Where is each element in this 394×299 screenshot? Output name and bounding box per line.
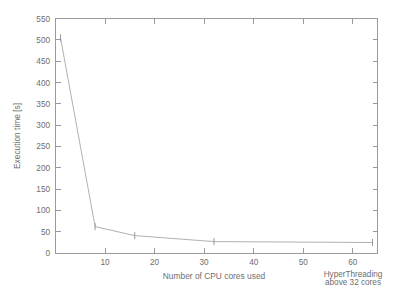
x-axis-ticks [105, 19, 353, 254]
x-tick-label: 20 [150, 258, 160, 267]
y-tick-label: 100 [36, 206, 50, 215]
y-tick-label: 350 [36, 100, 50, 109]
y-tick-label: 400 [36, 79, 50, 88]
y-tick-label: 150 [36, 185, 50, 194]
y-tick-label: 200 [36, 164, 50, 173]
y-axis-ticks [56, 19, 378, 254]
x-tick-label: 10 [100, 258, 110, 267]
x-axis-title: Number of CPU cores used [163, 271, 266, 281]
x-tick-label: 60 [348, 258, 358, 267]
hyperthreading-annotation: HyperThreading above 32 cores [324, 270, 383, 287]
x-tick-label: 30 [200, 258, 210, 267]
data-point-markers [61, 34, 373, 246]
y-tick-label: 250 [36, 142, 50, 151]
x-tick-label: 50 [299, 258, 309, 267]
execution-time-series-line [61, 38, 373, 243]
y-tick-label: 300 [36, 121, 50, 130]
plot-frame [56, 19, 378, 254]
hyperthreading-annotation-line2: above 32 cores [325, 278, 381, 287]
y-tick-label: 0 [45, 249, 50, 258]
x-tick-label: 40 [249, 258, 259, 267]
y-tick-label: 550 [36, 15, 50, 24]
chart-figure: · · · · · · · [0, 0, 394, 299]
y-tick-label: 50 [41, 228, 51, 237]
y-tick-label: 450 [36, 57, 50, 66]
y-tick-label: 500 [36, 36, 50, 45]
y-axis-title: Execution time [s] [12, 103, 22, 169]
execution-time-line-chart: 0 50 100 150 200 250 300 350 400 450 500… [0, 0, 394, 299]
